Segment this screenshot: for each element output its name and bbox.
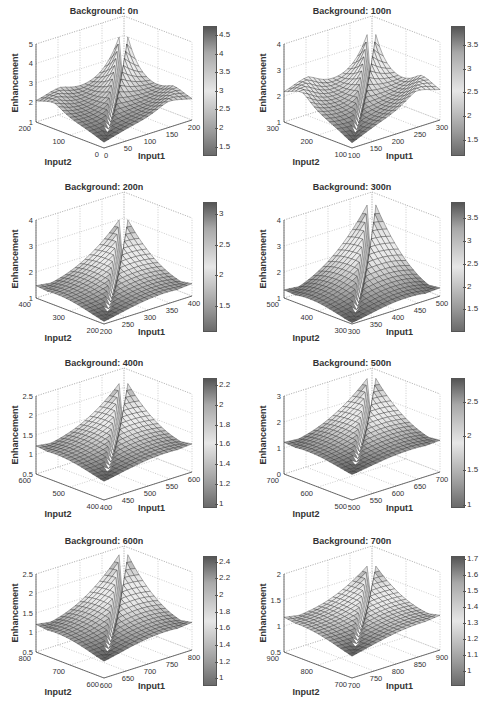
svg-text:550: 550 — [370, 496, 383, 505]
svg-text:Input2: Input2 — [293, 687, 320, 697]
svg-text:300: 300 — [52, 313, 65, 322]
colorbar-tick: 1 — [219, 500, 223, 508]
svg-text:500: 500 — [266, 300, 279, 309]
svg-text:Enhancement: Enhancement — [258, 583, 268, 642]
svg-text:1: 1 — [29, 628, 33, 637]
colorbar-tick: 2 — [219, 271, 223, 279]
svg-text:300: 300 — [334, 326, 347, 335]
svg-text:50: 50 — [124, 144, 132, 153]
svg-text:Input2: Input2 — [45, 157, 72, 167]
svg-text:250: 250 — [414, 130, 427, 139]
svg-text:750: 750 — [370, 674, 383, 683]
svg-text:750: 750 — [166, 660, 179, 669]
colorbar-tick: 2 — [467, 112, 471, 120]
surface-plot: 123450501001502000100200Input1Input2Enha… — [0, 0, 210, 176]
colorbar-tick: 2.4 — [219, 558, 230, 566]
svg-text:450: 450 — [122, 496, 135, 505]
svg-text:800: 800 — [188, 653, 201, 662]
colorbar-tick: 1.8 — [219, 608, 230, 616]
svg-text:1.5: 1.5 — [271, 596, 281, 605]
svg-text:2: 2 — [277, 92, 281, 101]
svg-text:4: 4 — [277, 40, 281, 49]
colorbar-tick: 2.5 — [467, 398, 478, 406]
svg-text:3: 3 — [277, 242, 281, 251]
svg-text:300: 300 — [144, 313, 157, 322]
svg-text:700: 700 — [348, 681, 361, 690]
svg-text:Enhancement: Enhancement — [258, 405, 268, 464]
svg-text:200: 200 — [300, 137, 313, 146]
colorbar-tick: 1.4 — [219, 641, 230, 649]
colorbar-tick: 3 — [219, 87, 223, 95]
subplot-6: Background: 600n 0.511.522.5600650700750… — [0, 530, 248, 706]
colorbar-tick: 1.6 — [219, 624, 230, 632]
svg-text:Input1: Input1 — [386, 681, 413, 691]
svg-text:500: 500 — [52, 489, 65, 498]
svg-text:Input1: Input1 — [138, 681, 165, 691]
svg-text:Enhancement: Enhancement — [258, 53, 268, 112]
svg-text:3: 3 — [277, 66, 281, 75]
svg-text:400: 400 — [86, 502, 99, 511]
svg-text:Input2: Input2 — [293, 333, 320, 343]
colorbar-tick: 1.5 — [219, 302, 230, 310]
subplot-7: Background: 700n 0.511.52700750800850900… — [248, 530, 496, 706]
svg-text:200: 200 — [392, 137, 405, 146]
svg-text:150: 150 — [166, 130, 179, 139]
svg-text:200: 200 — [188, 123, 201, 132]
svg-text:200: 200 — [100, 327, 113, 336]
svg-text:500: 500 — [436, 299, 449, 308]
svg-text:550: 550 — [166, 482, 179, 491]
colorbar — [203, 202, 217, 332]
subplot-3: Background: 300n 12343003504004505003004… — [248, 176, 496, 352]
svg-text:650: 650 — [414, 482, 427, 491]
svg-text:300: 300 — [436, 123, 449, 132]
colorbar — [451, 378, 465, 508]
svg-text:300: 300 — [266, 124, 279, 133]
colorbar-tick: 2.5 — [467, 88, 478, 96]
svg-text:1.5: 1.5 — [23, 431, 33, 440]
svg-text:600: 600 — [300, 489, 313, 498]
colorbar-tick: 1.5 — [467, 305, 478, 313]
svg-text:600: 600 — [188, 475, 201, 484]
svg-text:700: 700 — [334, 680, 347, 689]
svg-text:800: 800 — [300, 667, 313, 676]
svg-text:3: 3 — [29, 79, 33, 88]
colorbar-tick: 2 — [219, 124, 223, 132]
svg-text:2: 2 — [277, 570, 281, 579]
surface-plot: 0.511.522.5400450500550600400500600Input… — [0, 352, 210, 528]
svg-text:2: 2 — [29, 411, 33, 420]
subplot-4: Background: 400n 0.511.522.5400450500550… — [0, 352, 248, 528]
svg-text:350: 350 — [166, 306, 179, 315]
svg-text:650: 650 — [122, 674, 135, 683]
svg-text:2: 2 — [29, 98, 33, 107]
svg-text:150: 150 — [370, 144, 383, 153]
svg-text:1.5: 1.5 — [23, 609, 33, 618]
colorbar-tick: 1.5 — [219, 143, 230, 151]
colorbar — [203, 378, 217, 508]
colorbar-tick: 3.5 — [467, 41, 478, 49]
svg-text:450: 450 — [414, 306, 427, 315]
colorbar-tick: 2.2 — [219, 381, 230, 389]
svg-text:1: 1 — [277, 622, 281, 631]
svg-text:2.5: 2.5 — [23, 570, 33, 579]
colorbar-tick: 1.3 — [467, 619, 478, 627]
svg-text:300: 300 — [348, 327, 361, 336]
svg-text:Input2: Input2 — [293, 157, 320, 167]
svg-text:2.5: 2.5 — [23, 392, 33, 401]
colorbar-tick: 1.8 — [219, 421, 230, 429]
svg-text:100: 100 — [144, 137, 157, 146]
svg-text:Enhancement: Enhancement — [10, 583, 20, 642]
colorbar-tick: 1.2 — [219, 480, 230, 488]
svg-text:900: 900 — [436, 653, 449, 662]
svg-text:Enhancement: Enhancement — [10, 405, 20, 464]
svg-text:Input1: Input1 — [386, 151, 413, 161]
svg-text:400: 400 — [100, 503, 113, 512]
colorbar-tick: 1 — [219, 674, 223, 682]
colorbar-tick: 1.6 — [467, 571, 478, 579]
svg-text:2: 2 — [29, 268, 33, 277]
svg-text:4: 4 — [277, 216, 281, 225]
svg-text:4: 4 — [29, 59, 33, 68]
svg-text:500: 500 — [334, 502, 347, 511]
svg-text:350: 350 — [370, 320, 383, 329]
svg-text:250: 250 — [122, 320, 135, 329]
subplot-2: Background: 200n 12342002503003504002003… — [0, 176, 248, 352]
